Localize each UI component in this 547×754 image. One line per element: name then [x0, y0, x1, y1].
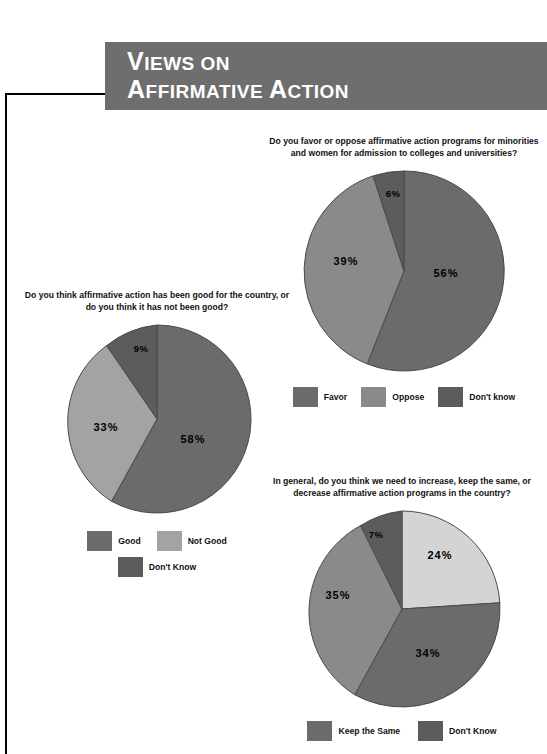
legend-label-oppose: Oppose [392, 392, 424, 402]
legend-favor: Favor Oppose Don't know [268, 387, 540, 407]
legend-item-keep-the-same: Keep the Same [307, 721, 400, 741]
chart-favor-oppose: Do you favor or oppose affirmative actio… [268, 136, 540, 407]
legend-item-favor: Favor [293, 387, 347, 407]
legend-item-dont-know: Don't know [438, 387, 515, 407]
pie-label-keep-the-same: 34% [415, 647, 440, 659]
legend-label-not-good: Not Good [188, 536, 227, 546]
pie-label-good: 58% [180, 433, 205, 445]
chart-affirmative-action-good: Do you think affirmative action has been… [20, 290, 294, 577]
frame-rule-vertical [5, 93, 7, 754]
pie-chart-increase: 24% 34% 35% 7% [300, 507, 504, 711]
legend-item-dont-know: Don't Know [20, 557, 294, 577]
pie-chart-good: 58% 33% 9% [59, 321, 255, 517]
pie-label-favor: 56% [433, 267, 458, 279]
pie-label-not-good: 33% [93, 421, 118, 433]
legend-label-dont-know: Don't Know [149, 562, 196, 572]
title-text-affirmative: FFIRMATIVE [146, 81, 269, 102]
legend-swatch-not-good-icon [157, 531, 182, 551]
legend-swatch-oppose-icon [361, 387, 386, 407]
legend-item-good: Good [87, 531, 140, 551]
pie-label-decrease: 35% [325, 589, 350, 601]
chart-question-favor: Do you favor or oppose affirmative actio… [268, 136, 540, 159]
legend-swatch-dont-know-icon [438, 387, 463, 407]
title-text-action: CTION [287, 81, 349, 102]
title-dropcap-a1: A [127, 75, 146, 103]
legend-swatch-keep-the-same-icon [307, 721, 332, 741]
pie-label-dont-know: 9% [134, 343, 149, 354]
title-banner: VIEWS ON AFFIRMATIVE ACTION [105, 42, 547, 110]
legend-swatch-good-icon [87, 531, 112, 551]
legend-good: Good Not Good Don't Know [20, 531, 294, 577]
chart-question-good: Do you think affirmative action has been… [20, 290, 294, 313]
pie-svg-favor: 56% 39% 6% [300, 167, 508, 375]
pie-label-dont-know: 6% [386, 188, 401, 199]
legend-label-keep-the-same: Keep the Same [338, 726, 400, 736]
legend-label-good: Good [118, 536, 140, 546]
legend-swatch-favor-icon [293, 387, 318, 407]
legend-item-dont-know: Don't Know [418, 721, 496, 741]
title-text-views-on: IEWS ON [144, 53, 230, 74]
legend-item-oppose: Oppose [361, 387, 424, 407]
frame-rule-horizontal [5, 93, 108, 95]
pie-chart-favor: 56% 39% 6% [300, 167, 508, 375]
legend-increase: Keep the Same Don't Know [262, 721, 542, 741]
pie-label-oppose: 39% [333, 255, 358, 267]
legend-item-not-good: Not Good [157, 531, 227, 551]
legend-label-dont-know: Don't Know [449, 726, 496, 736]
pie-svg-increase: 24% 34% 35% 7% [300, 507, 504, 711]
legend-swatch-dont-know-icon [118, 557, 143, 577]
legend-swatch-dont-know-icon [418, 721, 443, 741]
chart-question-increase: In general, do you think we need to incr… [262, 476, 542, 499]
title-dropcap-a2: A [269, 75, 288, 103]
pie-svg-good: 58% 33% 9% [59, 321, 255, 517]
page-title-line-2: AFFIRMATIVE ACTION [127, 75, 349, 104]
title-dropcap-v: V [127, 47, 144, 75]
pie-label-dont-know: 7% [369, 529, 384, 540]
legend-label-dont-know: Don't know [469, 392, 515, 402]
legend-label-favor: Favor [324, 392, 347, 402]
page-title-line-1: VIEWS ON [127, 47, 230, 76]
chart-increase-keep-decrease: In general, do you think we need to incr… [262, 476, 542, 741]
pie-label-increase: 24% [427, 549, 452, 561]
